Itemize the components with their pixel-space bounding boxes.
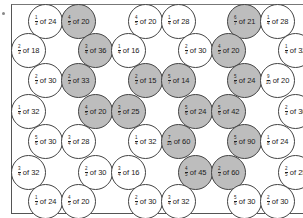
fraction: 14 xyxy=(18,106,21,116)
of-value: of 20 xyxy=(223,46,240,55)
fraction: 14 xyxy=(285,45,288,55)
of-value: of 24 xyxy=(272,137,289,146)
denominator: 6 xyxy=(218,112,221,117)
of-value: of 18 xyxy=(23,46,40,55)
fraction: 45 xyxy=(135,16,138,26)
of-value: of 30 xyxy=(90,168,107,177)
denominator: 7 xyxy=(168,81,171,86)
denominator: 3 xyxy=(18,51,21,56)
denominator: 8 xyxy=(267,142,270,147)
denominator: 5 xyxy=(135,22,138,27)
of-value: of 20 xyxy=(140,17,157,26)
denominator: 4 xyxy=(285,51,288,56)
denominator: 3 xyxy=(135,202,138,207)
fraction: 45 xyxy=(68,196,71,206)
fraction: 34 xyxy=(168,196,171,206)
of-value: of 14 xyxy=(173,76,190,85)
of-value: of 25 xyxy=(123,107,140,116)
fraction: 23 xyxy=(85,167,88,177)
denominator: 3 xyxy=(35,81,38,86)
fraction: 23 xyxy=(135,196,138,206)
fraction: 14 xyxy=(118,45,121,55)
of-value: of 24 xyxy=(40,17,57,26)
denominator: 3 xyxy=(185,51,188,56)
fraction-circle-shaded[interactable]: 56of 90 xyxy=(227,124,262,159)
of-value: of 60 xyxy=(174,137,191,146)
fraction-circle[interactable]: 34of 32 xyxy=(161,184,196,218)
fraction: 34 xyxy=(18,167,21,177)
of-value: of 24 xyxy=(239,76,256,85)
fraction-circle[interactable]: 23of 30 xyxy=(260,184,295,218)
fraction: 34 xyxy=(68,136,71,146)
denominator: 6 xyxy=(234,142,237,147)
of-value: of 32 xyxy=(140,137,157,146)
fraction-circle-shaded[interactable]: 23of 33 xyxy=(61,63,96,98)
fraction: 56 xyxy=(234,136,237,146)
denominator: 3 xyxy=(218,173,221,178)
fraction: 56 xyxy=(218,106,221,116)
fraction: 45 xyxy=(68,16,71,26)
fraction-circle[interactable]: 910of 20 xyxy=(260,63,295,98)
fraction-circle[interactable]: 23of 30 xyxy=(28,63,63,98)
of-value: of 30 xyxy=(239,197,256,206)
fraction: 67 xyxy=(234,16,237,26)
fraction-circle[interactable]: 23of 30 xyxy=(128,184,163,218)
fraction: 34 xyxy=(118,167,121,177)
denominator: 5 xyxy=(218,51,221,56)
denominator: 3 xyxy=(85,173,88,178)
denominator: 4 xyxy=(168,22,171,27)
denominator: 5 xyxy=(68,22,71,27)
fraction-circle[interactable]: 56of 30 xyxy=(227,184,262,218)
fraction: 45 xyxy=(218,45,221,55)
fraction: 23 xyxy=(135,75,138,85)
fraction-circle[interactable]: 18of 24 xyxy=(260,124,295,159)
fraction: 23 xyxy=(35,75,38,85)
fraction-circle-shaded[interactable]: 57of 14 xyxy=(161,63,196,98)
fraction: 23 xyxy=(267,196,270,206)
fraction: 45 xyxy=(185,167,188,177)
fraction-circle[interactable]: 56of 30 xyxy=(28,124,63,159)
fraction: 23 xyxy=(18,45,21,55)
denominator: 5 xyxy=(285,173,288,178)
fraction-circle-shaded[interactable]: 23of 15 xyxy=(128,63,163,98)
denominator: 4 xyxy=(85,51,88,56)
of-value: of 30 xyxy=(190,46,207,55)
fraction: 56 xyxy=(185,106,188,116)
of-value: of 20 xyxy=(73,17,90,26)
of-value: of 24 xyxy=(190,107,207,116)
of-value: of 45 xyxy=(190,168,207,177)
denominator: 4 xyxy=(118,51,121,56)
fraction-circle[interactable]: 14of 32 xyxy=(128,124,163,159)
of-value: of 30 xyxy=(140,197,157,206)
fraction: 34 xyxy=(85,45,88,55)
of-value: of 33 xyxy=(73,76,90,85)
fraction: 56 xyxy=(35,136,38,146)
denominator: 3 xyxy=(35,22,38,27)
fraction: 35 xyxy=(118,106,121,116)
fraction: 23 xyxy=(185,45,188,55)
denominator: 5 xyxy=(85,112,88,117)
denominator: 3 xyxy=(68,81,71,86)
fraction: 23 xyxy=(285,106,288,116)
denominator: 3 xyxy=(135,81,138,86)
denominator: 3 xyxy=(35,202,38,207)
fraction: 45 xyxy=(85,106,88,116)
of-value: of 32 xyxy=(173,197,190,206)
margin-mark xyxy=(2,12,5,15)
fraction-circle[interactable]: 13of 24 xyxy=(28,184,63,218)
of-value: of 28 xyxy=(173,17,190,26)
of-value: of 30 xyxy=(40,76,57,85)
denominator: 3 xyxy=(285,112,288,117)
of-value: of 30 xyxy=(272,197,289,206)
of-value: of 32 xyxy=(23,107,40,116)
fraction-circle[interactable]: 45of 20 xyxy=(61,184,96,218)
denominator: 3 xyxy=(267,202,270,207)
denominator: 4 xyxy=(168,202,171,207)
of-value: of 32 xyxy=(23,168,40,177)
fraction-circle-shaded[interactable]: 710of 60 xyxy=(161,124,196,159)
of-value: of 15 xyxy=(140,76,157,85)
denominator: 4 xyxy=(135,142,138,147)
fraction-circle-shaded[interactable]: 56of 24 xyxy=(227,63,262,98)
fraction-circle[interactable]: 34of 28 xyxy=(61,124,96,159)
fraction: 14 xyxy=(135,136,138,146)
